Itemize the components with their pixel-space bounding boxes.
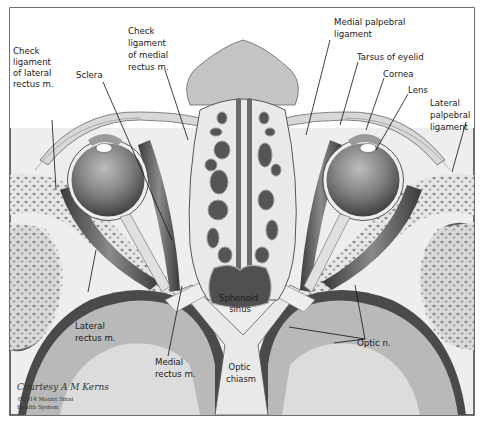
label-lens: Lens <box>408 85 428 95</box>
artist-signature: Courtesy A M Kerns <box>17 382 109 392</box>
label-cornea: Cornea <box>383 69 414 79</box>
copyright-line-1: ©2014 Mount Sinai <box>17 396 73 402</box>
label-sclera: Sclera <box>76 70 103 80</box>
lens-right <box>360 144 376 153</box>
copyright-line-2: Health System <box>17 404 59 411</box>
lens-left <box>96 144 112 153</box>
orbit-anatomy-illustration: Check ligament of lateral rectus m. Scle… <box>0 0 480 424</box>
label-tarsus-of-eyelid: Tarsus of eyelid <box>356 52 424 62</box>
label-optic-nerve: Optic n. <box>357 338 391 348</box>
eyeball-right <box>325 142 401 218</box>
